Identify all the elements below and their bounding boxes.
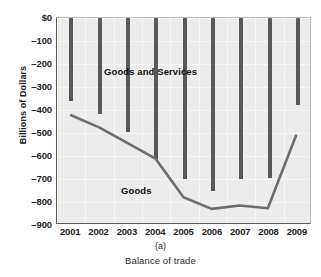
x-axis-tick-labels: 200120022003200420052006200720082009 [56, 226, 311, 240]
plot-area: Goods and Services Goods [56, 17, 311, 224]
x-tick-label: 2007 [230, 226, 250, 237]
x-tick-label: 2002 [88, 226, 108, 237]
x-tick-label: 2003 [117, 226, 137, 237]
y-axis-tick-labels: $0–100–200–300–400–500–600–700–800–900 [6, 0, 52, 277]
y-tick-label: –800 [8, 196, 52, 207]
figure-caption: Balance of trade [0, 255, 321, 266]
line-series-goods [57, 18, 310, 223]
y-tick-label: –500 [8, 127, 52, 138]
x-tick-label: 2005 [173, 226, 193, 237]
panel-identifier: (a) [0, 241, 321, 251]
y-tick-label: –600 [8, 150, 52, 161]
y-tick-label: –700 [8, 173, 52, 184]
y-tick-label: –400 [8, 104, 52, 115]
y-tick-label: –900 [8, 219, 52, 230]
x-tick-label: 2008 [258, 226, 278, 237]
y-tick-label: –300 [8, 81, 52, 92]
x-tick-label: 2009 [287, 226, 307, 237]
x-tick-label: 2001 [60, 226, 80, 237]
y-tick-label: –200 [8, 58, 52, 69]
y-tick-label: –100 [8, 35, 52, 46]
y-tick-label: $0 [8, 12, 52, 23]
annotation-goods: Goods [121, 185, 152, 196]
figure-balance-of-trade: Billions of Dollars $0–100–200–300–400–5… [0, 0, 321, 277]
x-tick-label: 2004 [145, 226, 165, 237]
annotation-goods-and-services: Goods and Services [104, 66, 197, 77]
x-tick-label: 2006 [202, 226, 222, 237]
